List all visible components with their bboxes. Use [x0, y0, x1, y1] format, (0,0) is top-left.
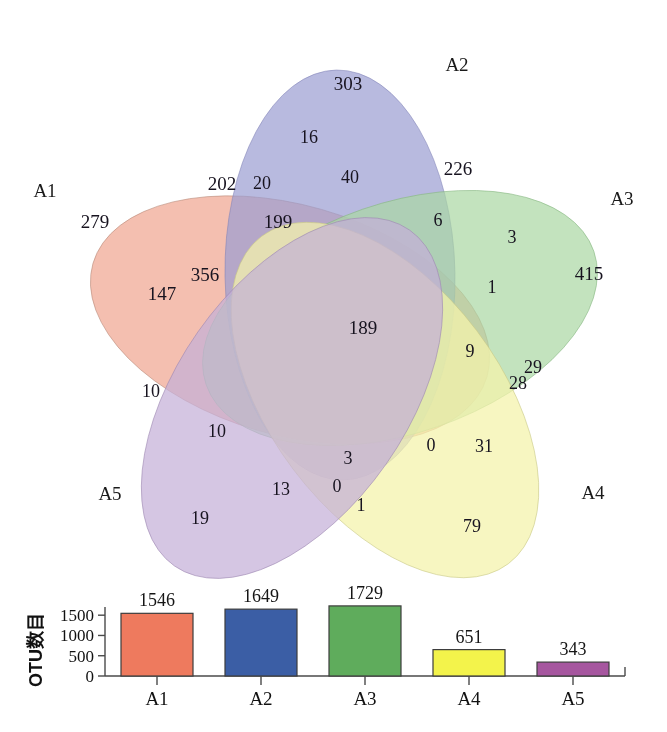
y-axis-tick-label: 500 [69, 647, 95, 666]
venn-count-r3_bot: 3 [344, 448, 353, 468]
venn-count-r40: 40 [341, 167, 359, 187]
bar-A2[interactable] [225, 609, 297, 676]
venn-count-r199: 199 [264, 211, 293, 232]
venn-count-r13: 13 [272, 479, 290, 499]
y-axis-tick-label: 1500 [60, 606, 94, 625]
venn-count-a5_only: 19 [191, 508, 209, 528]
bar-value-label-A4: 651 [456, 627, 483, 647]
y-axis-tick-label: 1000 [60, 626, 94, 645]
venn-set-label-a3: A3 [610, 188, 633, 209]
y-axis-tick-label: 0 [86, 667, 95, 686]
bar-value-label-A1: 1546 [139, 590, 175, 610]
x-axis-category-label-A4: A4 [457, 688, 481, 709]
venn-barchart-figure: A1 A2 A3 A4 A5 2793034157919162022040226… [0, 0, 667, 732]
x-axis-category-label-A3: A3 [353, 688, 376, 709]
venn-count-r31: 31 [475, 436, 493, 456]
figure-canvas: A1 A2 A3 A4 A5 2793034157919162022040226… [0, 0, 667, 732]
venn-count-a2_only: 303 [334, 73, 363, 94]
venn-count-r1_right: 1 [488, 277, 497, 297]
y-axis-title: OTU数目 [25, 613, 46, 687]
x-axis-category-label-A1: A1 [145, 688, 168, 709]
venn-count-r356: 356 [191, 264, 220, 285]
venn-count-r189: 189 [349, 317, 378, 338]
venn-count-r1_bot: 1 [357, 495, 366, 515]
venn-count-r9: 9 [466, 341, 475, 361]
venn-set-label-a1: A1 [33, 180, 56, 201]
x-axis-category-label-A5: A5 [561, 688, 584, 709]
venn-count-r226: 226 [444, 158, 473, 179]
venn-count-r0_bot: 0 [333, 476, 342, 496]
venn-count-r6: 6 [434, 210, 443, 230]
venn-count-r202: 202 [208, 173, 237, 194]
venn-count-r20: 20 [253, 173, 271, 193]
venn-count-r16: 16 [300, 127, 318, 147]
venn-count-r147: 147 [148, 283, 177, 304]
bar-value-label-A3: 1729 [347, 583, 383, 603]
bar-value-label-A2: 1649 [243, 586, 279, 606]
venn-count-a1_only: 279 [81, 211, 110, 232]
venn-count-a4_only: 79 [463, 516, 481, 536]
bar-A4[interactable] [433, 650, 505, 676]
bar-A1[interactable] [121, 613, 193, 676]
venn-set-label-a2: A2 [445, 54, 468, 75]
x-axis-category-label-A2: A2 [249, 688, 272, 709]
venn-set-label-a5: A5 [98, 483, 121, 504]
bar-A5[interactable] [537, 662, 609, 676]
venn-count-r0_right: 0 [427, 435, 436, 455]
venn-set-label-a4: A4 [581, 482, 605, 503]
venn-count-a3_only: 415 [575, 263, 604, 284]
venn-count-r3_right: 3 [508, 227, 517, 247]
venn-count-r10_mid: 10 [208, 421, 226, 441]
venn-count-r28: 28 [509, 373, 527, 393]
venn-count-r10_left: 10 [142, 381, 160, 401]
bar-value-label-A5: 343 [560, 639, 587, 659]
bar-A3[interactable] [329, 606, 401, 676]
